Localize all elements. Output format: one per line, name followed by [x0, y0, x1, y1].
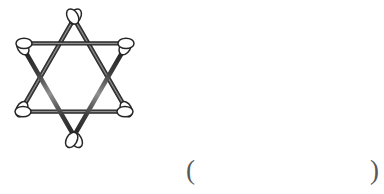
swab-upper-horizontal — [16, 38, 134, 48]
answer-close-paren: ) — [370, 157, 379, 184]
swab-upper-right-diagonal — [64, 7, 135, 119]
answer-open-paren: ( — [186, 157, 195, 184]
swab-lower-right-diagonal — [63, 37, 134, 149]
swab-lower-horizontal — [15, 106, 133, 116]
hexagram-svg — [0, 0, 150, 155]
page-canvas: ( ) — [0, 0, 384, 194]
answer-blank[interactable]: ( ) — [186, 150, 381, 190]
cotton-swab-hexagram-figure — [0, 0, 150, 155]
answer-blank-space[interactable] — [195, 170, 370, 171]
